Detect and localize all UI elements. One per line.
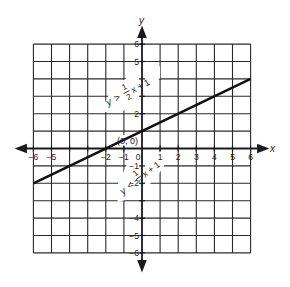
x-tick-label: 6 bbox=[248, 152, 253, 162]
x-axis-label: x bbox=[269, 143, 276, 154]
y-tick-label: −6 bbox=[129, 248, 139, 258]
x-tick-label: 4 bbox=[212, 152, 217, 162]
x-tick-label: −2 bbox=[101, 152, 111, 162]
x-axis-right-arrow-icon bbox=[258, 145, 267, 152]
x-tick-label: −1 bbox=[119, 152, 129, 162]
x-tick-label: −5 bbox=[47, 152, 57, 162]
y-tick-label: 2 bbox=[134, 109, 139, 119]
x-tick-label: 1 bbox=[158, 152, 163, 162]
y-axis-up-arrow-icon bbox=[139, 28, 146, 37]
y-tick-label: −5 bbox=[129, 231, 139, 241]
y-tick-label: 6 bbox=[134, 39, 139, 49]
origin-label: (0, 0) bbox=[117, 136, 138, 146]
y-tick-label: −4 bbox=[129, 213, 139, 223]
inequality-graph: −6−5−2−10123456652−1−2−4−5−6 y x (0, 0) … bbox=[0, 0, 290, 287]
y-axis-down-arrow-icon bbox=[139, 261, 146, 270]
x-tick-label: 5 bbox=[230, 152, 235, 162]
x-axis-left-arrow-icon bbox=[17, 145, 26, 152]
y-axis-label: y bbox=[138, 15, 145, 26]
x-tick-label: −6 bbox=[29, 152, 39, 162]
y-tick-label: 5 bbox=[134, 57, 139, 67]
x-tick-label: 3 bbox=[194, 152, 199, 162]
x-tick-label: 2 bbox=[176, 152, 181, 162]
axes bbox=[17, 28, 267, 270]
